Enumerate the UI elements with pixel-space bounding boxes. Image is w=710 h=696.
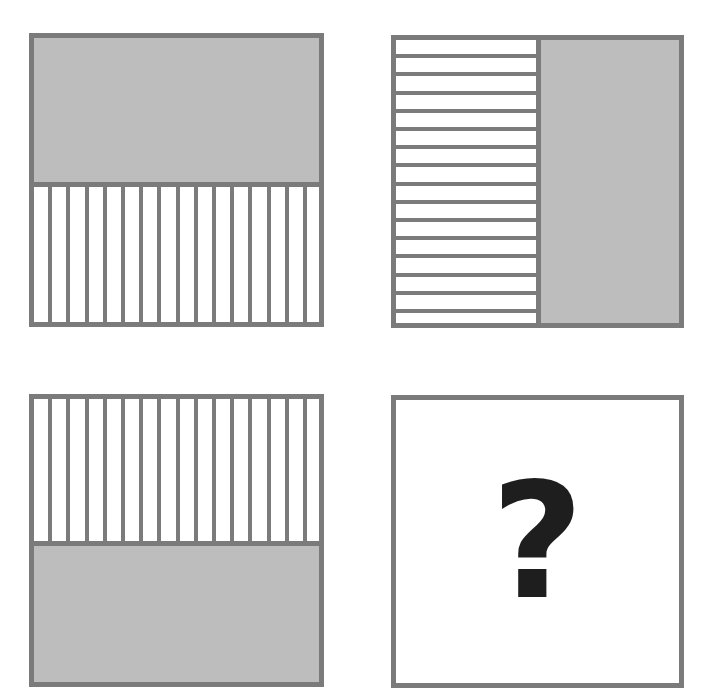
vertical-stripes-region	[34, 187, 319, 322]
gray-fill-region	[34, 38, 319, 182]
panel-top-right	[391, 35, 684, 328]
gray-fill-region	[34, 546, 319, 682]
gray-fill-region	[541, 40, 679, 323]
question-mark-icon: ?	[396, 400, 679, 683]
panel-bottom-right: ?	[391, 395, 684, 688]
panel-top-left	[29, 33, 324, 327]
vertical-stripes-region	[34, 399, 319, 541]
question-mark-text: ?	[491, 462, 584, 622]
panel-bottom-left	[29, 394, 324, 687]
horizontal-stripes-region	[396, 40, 536, 323]
